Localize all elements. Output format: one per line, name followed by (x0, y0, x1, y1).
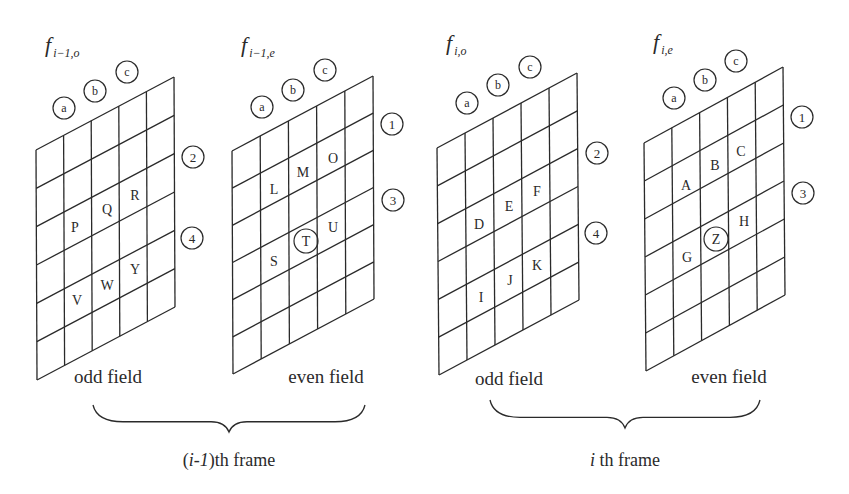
pixel-label: H (739, 214, 749, 229)
column-marker-a: a (663, 87, 685, 109)
frame-label: i th frame (590, 450, 660, 470)
pixel-label: P (71, 220, 79, 235)
row-marker-4: 4 (181, 227, 203, 249)
marker-label: c (527, 60, 532, 74)
pixel-D: D (474, 217, 484, 232)
pixel-label: A (681, 178, 692, 193)
pixel-Z: Z (704, 227, 728, 251)
marker-label: c (124, 65, 129, 79)
grid-row-line (233, 188, 374, 263)
pixel-grid (232, 76, 374, 374)
pixel-grid (36, 77, 175, 380)
marker-label: 1 (799, 110, 806, 125)
curly-brace (93, 405, 365, 432)
interlaced-fields-diagram: fi−1,oabc24PQRVWYodd fieldfi−1,eabc13LMO… (0, 0, 849, 494)
pixel-label: L (270, 182, 279, 197)
pixel-O: O (328, 151, 338, 166)
field-caption: even field (691, 366, 767, 387)
pixel-Y: Y (130, 262, 140, 277)
marker-label: a (671, 91, 677, 105)
pixel-label: V (72, 293, 82, 308)
pixel-F: F (533, 184, 541, 199)
grid-row-line (36, 115, 174, 188)
field-f_prev_even: fi−1,eabc13LMOSTUeven field (232, 32, 404, 387)
pixel-Q: Q (102, 202, 112, 217)
pixel-W: W (100, 278, 114, 293)
pixel-A: A (681, 178, 692, 193)
pixel-label: K (532, 258, 542, 273)
marker-label: c (733, 54, 738, 68)
grid-row-line (232, 150, 373, 225)
column-marker-b: b (694, 69, 716, 91)
pixel-label: W (100, 278, 114, 293)
marker-label: b (495, 78, 501, 92)
column-marker-a: a (53, 97, 75, 119)
field-f_curr_even: fi,eabc13ABCGZHeven field (644, 29, 814, 387)
grid-row-line (438, 224, 578, 299)
pixel-G: G (682, 250, 692, 265)
frame-group-2: i th frame (490, 400, 760, 470)
pixel-L: L (270, 182, 279, 197)
pixel-C: C (736, 144, 745, 159)
column-marker-b: b (487, 74, 509, 96)
row-marker-1: 1 (791, 106, 813, 128)
pixel-I: I (479, 290, 484, 305)
pixel-label: O (328, 151, 338, 166)
row-marker-1: 1 (381, 113, 403, 135)
grid-row-line (645, 143, 784, 219)
pixel-label: Y (130, 262, 140, 277)
pixel-K: K (532, 258, 542, 273)
pixel-P: P (71, 220, 79, 235)
field-caption: odd field (74, 366, 143, 387)
row-marker-4: 4 (585, 222, 607, 244)
grid-row-line (437, 111, 577, 186)
pixel-J: J (507, 273, 513, 288)
curly-brace (490, 400, 760, 428)
pixel-label: D (474, 217, 484, 232)
field-f_prev_odd: fi−1,oabc24PQRVWYodd field (36, 32, 204, 387)
grid-row-line (645, 219, 784, 295)
pixel-grid (644, 67, 785, 371)
field-caption: even field (288, 366, 364, 387)
pixel-grid (437, 73, 579, 375)
pixel-label: Q (102, 202, 112, 217)
column-marker-c: c (116, 61, 138, 83)
marker-label: a (61, 101, 67, 115)
marker-label: a (464, 96, 470, 110)
field-title: fi,o (446, 30, 466, 58)
pixel-label: U (328, 220, 338, 235)
marker-label: b (290, 83, 296, 97)
row-marker-2: 2 (182, 146, 204, 168)
pixel-E: E (505, 199, 514, 214)
pixel-B: B (710, 158, 719, 173)
pixel-label: Z (712, 232, 721, 247)
grid-row-line (233, 299, 374, 374)
pixel-label: S (270, 254, 278, 269)
row-marker-3: 3 (792, 182, 814, 204)
marker-label: 4 (189, 231, 196, 246)
pixel-label: R (130, 188, 140, 203)
row-marker-2: 2 (586, 142, 608, 164)
pixel-U: U (328, 220, 338, 235)
column-marker-c: c (725, 50, 747, 72)
field-title: fi−1,o (45, 32, 80, 60)
marker-label: 3 (800, 186, 807, 201)
grid-row-line (646, 257, 785, 333)
frame-label: (i-1)th frame (183, 450, 275, 471)
marker-label: b (92, 84, 98, 98)
frame-group-1: (i-1)th frame (93, 405, 365, 471)
pixel-label: F (533, 184, 541, 199)
marker-label: a (259, 100, 265, 114)
grid-row-line (233, 262, 374, 337)
grid-row-line (439, 300, 579, 375)
column-marker-b: b (84, 80, 106, 102)
pixel-T: T (294, 229, 318, 253)
column-marker-c: c (519, 56, 541, 78)
pixel-label: J (507, 273, 513, 288)
field-title: fi−1,e (241, 32, 276, 60)
pixel-H: H (739, 214, 749, 229)
column-marker-a: a (251, 96, 273, 118)
pixel-S: S (270, 254, 278, 269)
marker-label: b (702, 73, 708, 87)
field-title: fi,e (653, 29, 673, 57)
